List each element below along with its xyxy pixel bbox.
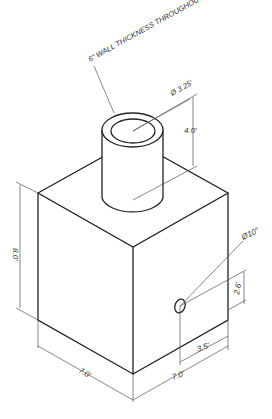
isometric-drawing: 6" WALL THICKNESS THROUGHOUT Ø 3.25' 4.0… bbox=[0, 0, 272, 419]
hole-diameter-label: Ø10" bbox=[239, 226, 261, 243]
hole-height-label: 2.6' bbox=[232, 281, 243, 296]
hole-offset-label: 3.5' bbox=[196, 341, 211, 354]
pipe-diameter-label: Ø 3.25' bbox=[168, 78, 195, 98]
hole-leader bbox=[180, 241, 243, 306]
box-height-label: 8.0' bbox=[11, 248, 20, 261]
box-width-left-label: 7.0' bbox=[77, 366, 93, 380]
note-leader bbox=[94, 66, 114, 113]
pipe-height-label: 4.0' bbox=[184, 126, 197, 135]
note-text: 6" WALL THICKNESS THROUGHOUT bbox=[87, 0, 206, 64]
